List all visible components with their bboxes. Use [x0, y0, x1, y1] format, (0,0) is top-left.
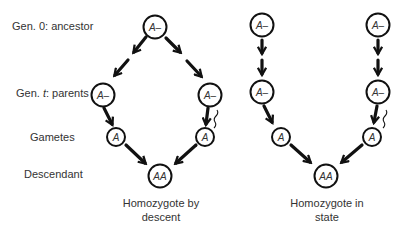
- arrow-icon: [104, 108, 112, 124]
- node-parent-left: A–: [92, 84, 115, 107]
- arrow-icon: [342, 145, 362, 162]
- node-label: A–: [371, 20, 385, 31]
- arrow-icon: [166, 38, 180, 52]
- arrow-icon: [206, 108, 208, 124]
- node-gamete-right: A: [363, 128, 381, 146]
- caption-right-line1: Homozygote in: [282, 196, 372, 210]
- node-parent-left: A–: [251, 81, 274, 104]
- node-label: A–: [203, 90, 217, 101]
- arrow-icon: [187, 61, 201, 76]
- caption-right-line2: state: [282, 210, 372, 224]
- node-label: A–: [96, 90, 110, 101]
- node-ancestor-left: A–: [251, 14, 274, 37]
- node-label: A–: [255, 87, 269, 98]
- mutation-squiggle-icon: [214, 110, 218, 128]
- arrow-icon: [291, 145, 310, 162]
- node-label: A–: [371, 87, 385, 98]
- left-diagram: A– A– A– A A AA: [92, 16, 222, 188]
- node-label: A: [277, 132, 285, 143]
- caption-right: Homozygote in state: [282, 196, 372, 224]
- node-parent-right: A–: [199, 84, 222, 107]
- arrow-icon: [264, 106, 272, 122]
- node-gamete-left: A: [107, 128, 125, 146]
- arrow-icon: [374, 106, 377, 122]
- caption-left-line2: descent: [115, 210, 207, 224]
- arrow-icon: [176, 145, 196, 163]
- node-gamete-left: A: [272, 128, 290, 146]
- node-label: A: [112, 132, 120, 143]
- node-label: A–: [148, 22, 162, 33]
- node-ancestor: A–: [144, 16, 167, 39]
- arrow-icon: [126, 145, 145, 163]
- node-label: A–: [255, 20, 269, 31]
- node-label: A: [201, 132, 209, 143]
- caption-left: Homozygote by descent: [115, 196, 207, 224]
- arrow-icon: [115, 60, 128, 75]
- node-label: AA: [152, 171, 167, 182]
- node-gamete-right: A: [196, 128, 214, 146]
- node-label: A: [368, 132, 376, 143]
- node-label: AA: [318, 171, 333, 182]
- arrow-icon: [134, 37, 146, 52]
- mutation-squiggle-icon: [383, 110, 387, 128]
- node-descendant: AA: [315, 165, 338, 188]
- caption-left-line1: Homozygote by: [115, 196, 207, 210]
- node-descendant: AA: [149, 165, 172, 188]
- right-diagram: A– A– A– A– A A AA: [251, 14, 390, 188]
- node-ancestor-right: A–: [367, 14, 390, 37]
- node-parent-right: A–: [367, 81, 390, 104]
